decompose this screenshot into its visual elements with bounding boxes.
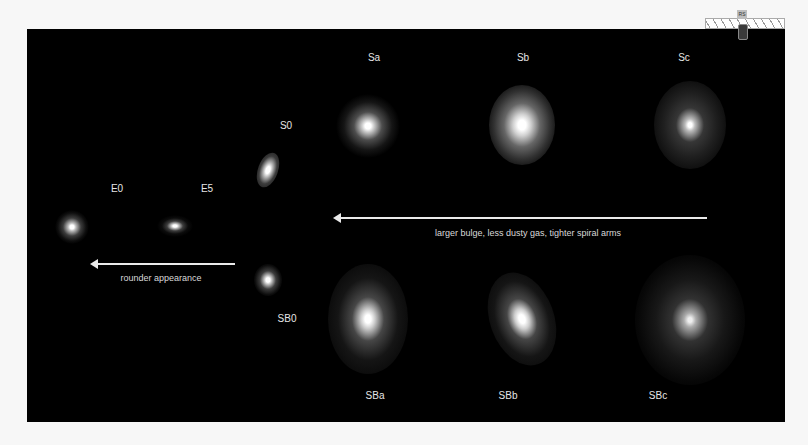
spiral-trend-arrow: [340, 217, 707, 219]
galaxy-sc: [654, 81, 726, 169]
label-sbc: SBc: [649, 390, 667, 401]
label-e5: E5: [201, 183, 213, 194]
spiral-trend-caption: larger bulge, less dusty gas, tighter sp…: [435, 228, 621, 238]
label-s0: S0: [280, 120, 292, 131]
galaxy-sbc: [635, 255, 745, 385]
galaxy-sb: [489, 85, 555, 165]
label-sb: Sb: [517, 52, 529, 63]
label-sa: Sa: [368, 52, 380, 63]
galaxy-e5: [157, 215, 193, 237]
slider-handle-icon[interactable]: [738, 24, 748, 40]
galaxy-sba: [328, 264, 408, 374]
elliptical-trend-caption: rounder appearance: [120, 273, 201, 283]
label-sbb: SBb: [499, 390, 518, 401]
overlay-tab[interactable]: RS: [737, 10, 747, 19]
galaxy-sa: [336, 94, 400, 158]
label-sba: SBa: [366, 390, 385, 401]
label-sc: Sc: [678, 52, 690, 63]
galaxy-sb0: [254, 264, 282, 296]
galaxy-e0: [55, 210, 89, 244]
label-sb0: SB0: [278, 313, 297, 324]
label-e0: E0: [111, 183, 123, 194]
elliptical-trend-arrow: [97, 263, 235, 265]
